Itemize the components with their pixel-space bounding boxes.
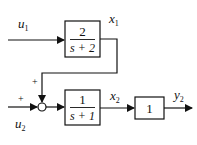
block-diagram: u1 2 s + 2 x1 + + u2 1 s + 1 x2 1 xyxy=(0,0,197,145)
left-plus-sign: + xyxy=(18,93,24,104)
u1-label: u1 xyxy=(18,16,29,33)
block-g2[interactable]: 1 s + 1 xyxy=(65,90,100,125)
block-g1[interactable]: 2 s + 2 xyxy=(65,21,100,57)
x2-label: x2 xyxy=(109,88,120,105)
top-plus-sign: + xyxy=(32,76,38,87)
g2-numerator: 1 xyxy=(79,92,86,107)
g3-gain: 1 xyxy=(146,101,153,116)
g1-denominator: s + 2 xyxy=(70,41,95,55)
y2-label: y2 xyxy=(172,87,184,104)
g1-numerator: 2 xyxy=(79,24,86,39)
block-g3[interactable]: 1 xyxy=(135,97,164,119)
summing-junction[interactable] xyxy=(38,103,46,111)
u2-label: u2 xyxy=(15,116,26,133)
x1-label: x1 xyxy=(108,11,119,28)
g2-denominator: s + 1 xyxy=(70,109,95,123)
